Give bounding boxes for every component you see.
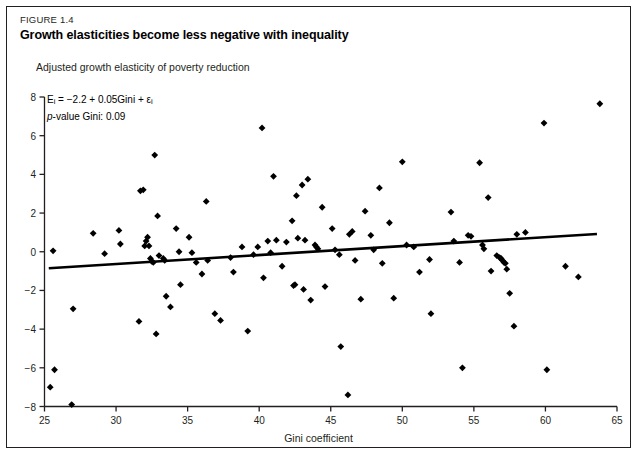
x-tick-label: 30 [101, 415, 131, 426]
regression-annotation: Ei = −2.2 + 0.05Gini + εi p-value Gini: … [47, 93, 153, 124]
y-axis-title: Adjusted growth elasticity of poverty re… [36, 61, 250, 73]
y-tick-label: 2 [8, 208, 36, 219]
x-axis-title: Gini coefficient [0, 432, 637, 444]
y-tick-label: −2 [8, 285, 36, 296]
y-tick-label: −4 [8, 324, 36, 335]
regression-pvalue: p-value Gini: 0.09 [47, 110, 153, 124]
y-tick-label: −8 [8, 401, 36, 412]
figure-container: FIGURE 1.4 Growth elasticities become le… [0, 0, 637, 454]
x-tick-label: 35 [173, 415, 203, 426]
x-tick-label: 65 [602, 415, 632, 426]
x-tick-label: 60 [530, 415, 560, 426]
y-tick-label: −6 [8, 362, 36, 373]
x-tick-label: 25 [30, 415, 60, 426]
x-tick-label: 40 [244, 415, 274, 426]
y-tick-label: 6 [8, 130, 36, 141]
figure-title: Growth elasticities become less negative… [20, 28, 349, 42]
y-tick-label: 0 [8, 246, 36, 257]
x-tick-label: 45 [316, 415, 346, 426]
y-tick-label: 8 [8, 92, 36, 103]
regression-equation: Ei = −2.2 + 0.05Gini + εi [47, 93, 153, 109]
x-tick-label: 55 [459, 415, 489, 426]
y-tick-label: 4 [8, 169, 36, 180]
x-tick-label: 50 [387, 415, 417, 426]
figure-number: FIGURE 1.4 [20, 14, 74, 25]
